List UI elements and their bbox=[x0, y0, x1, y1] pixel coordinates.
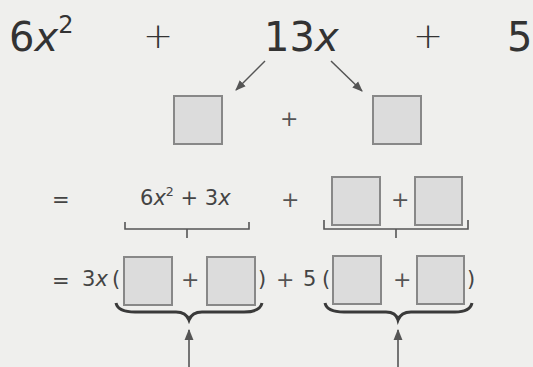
coefficient: 3 bbox=[205, 186, 218, 210]
variable: x bbox=[315, 14, 339, 60]
exponent: 2 bbox=[166, 184, 174, 199]
equals-sign-2: = bbox=[52, 270, 70, 292]
variable: x bbox=[218, 186, 230, 210]
term-5: 5 bbox=[507, 17, 532, 57]
factor-2-box-1[interactable] bbox=[332, 255, 382, 305]
term-13x: 13x bbox=[264, 17, 339, 57]
factor-1-box-1[interactable] bbox=[123, 256, 173, 306]
variable: x bbox=[153, 186, 165, 210]
factor-5: 5 bbox=[303, 268, 316, 290]
arrow-to-split-box-1 bbox=[236, 61, 265, 90]
group-1-expression: 6x2 + 3x bbox=[140, 187, 231, 212]
plus-sign-1: + bbox=[143, 18, 173, 54]
close-paren-1: ) bbox=[258, 268, 266, 290]
arrow-to-split-box-2 bbox=[331, 61, 362, 91]
variable: x bbox=[34, 14, 58, 60]
variable: x bbox=[95, 267, 107, 291]
factor-2-box-2[interactable] bbox=[416, 255, 465, 305]
factor-2-plus-sign: + bbox=[393, 269, 411, 291]
bracket-group-1 bbox=[125, 222, 249, 238]
split-plus-sign: + bbox=[280, 108, 298, 130]
group-2-box-1[interactable] bbox=[331, 176, 381, 226]
coefficient: 6 bbox=[140, 186, 153, 210]
coefficient: 3 bbox=[82, 267, 95, 291]
term-6x-squared: 6x2 bbox=[9, 17, 73, 63]
close-paren-2: ) bbox=[467, 268, 475, 290]
equals-sign-1: = bbox=[52, 189, 70, 211]
coefficient: 6 bbox=[9, 14, 34, 60]
factor-3x: 3x bbox=[82, 268, 108, 290]
plus-sign: + bbox=[181, 186, 199, 210]
factor-1-plus-sign: + bbox=[181, 269, 199, 291]
split-box-2[interactable] bbox=[372, 95, 422, 145]
exponent: 2 bbox=[58, 11, 73, 39]
open-paren-1: ( bbox=[112, 268, 120, 290]
split-box-1[interactable] bbox=[173, 95, 223, 145]
group-2-plus-sign: + bbox=[391, 189, 409, 211]
coefficient: 13 bbox=[264, 14, 315, 60]
group-plus-sign: + bbox=[281, 189, 299, 211]
factor-1-box-2[interactable] bbox=[206, 256, 256, 306]
plus-sign-2: + bbox=[413, 18, 443, 54]
group-2-box-2[interactable] bbox=[414, 176, 463, 226]
brace-factor-2 bbox=[325, 303, 472, 320]
middle-plus-sign: + bbox=[276, 269, 294, 291]
open-paren-2: ( bbox=[322, 268, 330, 290]
